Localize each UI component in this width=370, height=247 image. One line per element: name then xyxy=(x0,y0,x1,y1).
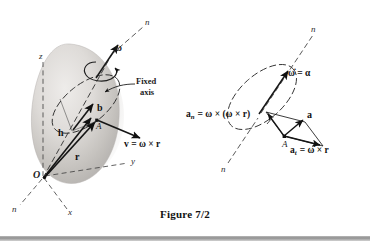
point-label-A-right: A xyxy=(282,140,288,149)
axis-label-z: z xyxy=(39,52,43,61)
acceleration-parallelogram xyxy=(266,112,323,146)
point-A-marker-right xyxy=(283,135,286,138)
rigid-body-shape xyxy=(31,44,124,184)
velocity-equation-label: v = ω × r xyxy=(124,140,160,150)
axis-label-n-top-left: n xyxy=(145,18,150,27)
vector-label-b: b xyxy=(97,103,103,113)
point-label-A-left: A xyxy=(96,122,102,131)
axis-label-n-top-right: n xyxy=(311,25,316,34)
alpha-equation-label: ω̇ = α xyxy=(288,69,310,79)
vector-label-r: r xyxy=(75,152,79,162)
fixed-axis-label-line2: axis xyxy=(140,88,154,97)
at-rhs: = ω̇ × r xyxy=(300,145,329,155)
normal-acceleration-arrow xyxy=(268,114,284,136)
figure-caption: Figure 7/2 xyxy=(0,208,370,220)
tangential-acceleration-arrow xyxy=(284,136,320,145)
footer-spacer xyxy=(0,241,370,247)
tangential-acceleration-equation: at= ω̇ × r xyxy=(290,146,329,156)
origin-label-O: O xyxy=(33,170,40,180)
normal-acceleration-equation: an= ω × (ω × r) xyxy=(186,110,250,120)
right-rotation-axis xyxy=(228,35,313,163)
at-subscript: t xyxy=(295,149,297,156)
vector-label-h: h xyxy=(58,128,64,138)
fixed-axis-label-line1: Fixed xyxy=(136,77,156,86)
axis-n-lower-left xyxy=(20,179,42,205)
resultant-acceleration-vector xyxy=(284,120,303,136)
omega-label-left: ω xyxy=(115,44,122,54)
axis-label-n-bottom-right: n xyxy=(221,165,226,174)
origin-O-marker xyxy=(43,176,46,179)
figure-page: n z y x n O A ω b h r Fixed axis v = ω ×… xyxy=(0,0,370,247)
vector-label-a: a xyxy=(307,110,312,120)
omega-dot-vector xyxy=(259,71,288,114)
an-rhs: = ω × (ω × r) xyxy=(198,109,251,119)
axis-label-y: y xyxy=(131,157,135,166)
an-subscript: n xyxy=(191,113,195,120)
